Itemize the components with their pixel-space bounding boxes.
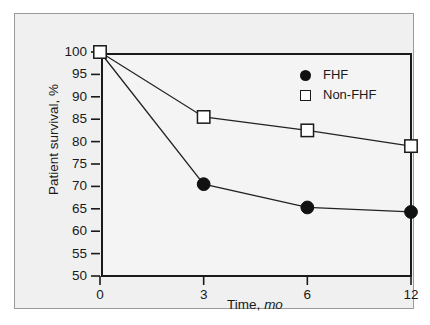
x-tick-label: 3 bbox=[187, 288, 221, 302]
y-tick-label: 55 bbox=[51, 247, 87, 261]
x-tick-label: 0 bbox=[83, 288, 117, 302]
figure-root: Patient survival, % Time, mo FHF Non-FHF bbox=[0, 0, 430, 325]
legend-item-non-fhf: Non-FHF bbox=[298, 86, 376, 103]
y-tick-label: 75 bbox=[51, 157, 87, 171]
legend: FHF Non-FHF bbox=[298, 66, 376, 106]
open-square-icon bbox=[298, 87, 314, 103]
filled-circle-icon bbox=[298, 67, 314, 83]
y-tick-label: 90 bbox=[51, 90, 87, 104]
legend-label-fhf: FHF bbox=[323, 67, 348, 82]
y-tick-label: 70 bbox=[51, 179, 87, 193]
legend-label-non-fhf: Non-FHF bbox=[323, 87, 376, 102]
y-tick-label: 60 bbox=[51, 224, 87, 238]
x-axis-title-unit: mo bbox=[264, 297, 283, 312]
y-tick-label: 50 bbox=[51, 269, 87, 283]
x-axis-title-text: Time, bbox=[227, 297, 260, 312]
y-tick-label: 65 bbox=[51, 202, 87, 216]
x-tick-label: 12 bbox=[394, 288, 428, 302]
legend-item-fhf: FHF bbox=[298, 66, 376, 83]
x-tick-label: 6 bbox=[290, 288, 324, 302]
y-tick-label: 100 bbox=[51, 45, 87, 59]
y-tick-label: 95 bbox=[51, 67, 87, 81]
y-tick-label: 80 bbox=[51, 135, 87, 149]
y-tick-label: 85 bbox=[51, 112, 87, 126]
